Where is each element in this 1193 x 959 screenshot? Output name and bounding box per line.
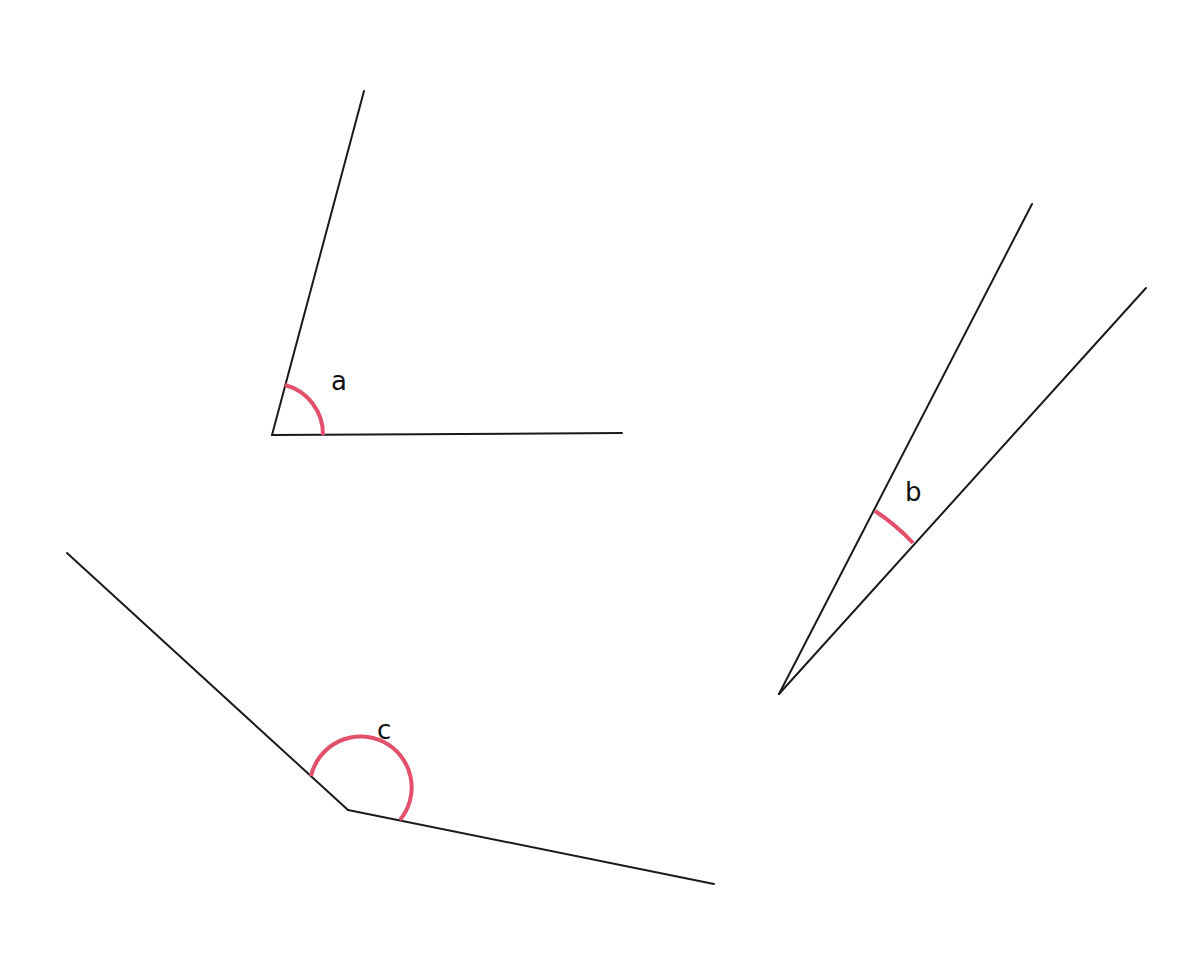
angle-b-ray-left (779, 204, 1032, 694)
angle-c-label: c (377, 715, 391, 745)
angle-c-group: c (67, 553, 714, 884)
angle-b-label: b (905, 477, 922, 507)
angle-b-arc (875, 511, 913, 543)
angle-b-ray-right (779, 288, 1146, 694)
angle-c-arc (311, 737, 412, 820)
angles-diagram: a b c (0, 0, 1193, 959)
angle-a-group: a (272, 91, 622, 435)
angle-b-group: b (779, 204, 1146, 694)
angle-a-arc (285, 385, 323, 435)
angle-a-label: a (331, 366, 347, 396)
angle-c-ray-left (67, 553, 348, 810)
angle-c-ray-right (348, 810, 714, 884)
